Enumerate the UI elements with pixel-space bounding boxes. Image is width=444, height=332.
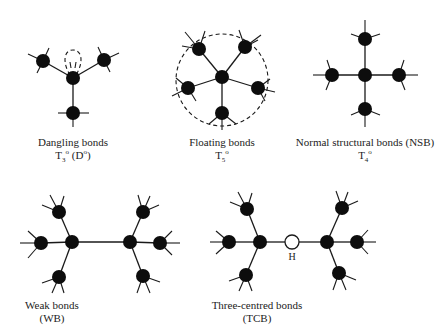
weak-bonds-structure (20, 195, 180, 293)
floating-bonds-title: Floating bonds (189, 136, 255, 149)
atom (136, 205, 150, 219)
nsb-symbol: T4o (296, 149, 434, 162)
atom (240, 202, 254, 216)
central-atom (358, 68, 372, 82)
atom (358, 102, 372, 116)
atom (34, 236, 48, 250)
atom (36, 54, 50, 68)
dangling-bonds-symbol: T3o (Do) (38, 149, 108, 162)
atom (251, 81, 265, 95)
three-centred-bonds-structure (210, 191, 376, 291)
atom (153, 236, 167, 250)
atom (332, 266, 346, 280)
atom (192, 42, 206, 56)
floating-bonds-symbol: T5o (189, 149, 255, 162)
atom (66, 106, 80, 120)
atom (52, 205, 66, 219)
atom (136, 269, 150, 283)
hydrogen-label: H (288, 251, 295, 262)
tcb-label: Three-centred bonds (TCB) (212, 299, 303, 325)
tcb-title: Three-centred bonds (212, 299, 303, 312)
atom (358, 32, 372, 46)
central-atom (253, 235, 267, 249)
floating-bonds-label: Floating bonds T5o (189, 136, 255, 162)
atom (181, 81, 195, 95)
dangling-bonds-label: Dangling bonds T3o (Do) (38, 136, 108, 162)
floating-bonds-structure (172, 30, 275, 130)
nsb-structure (313, 20, 418, 127)
central-atom (66, 71, 80, 85)
atom (97, 53, 111, 67)
dangling-bonds-title: Dangling bonds (38, 136, 108, 149)
tcb-abbrev: (TCB) (212, 312, 303, 325)
atom (239, 268, 253, 282)
atom (335, 201, 349, 215)
atom (392, 68, 406, 82)
atom (215, 106, 229, 120)
weak-bonds-title: Weak bonds (25, 299, 79, 312)
central-atom (123, 235, 137, 249)
central-atom (215, 70, 229, 84)
dangling-bonds-structure (28, 47, 119, 127)
central-atom (65, 235, 79, 249)
nsb-title: Normal structural bonds (NSB) (296, 136, 434, 149)
central-atom (320, 235, 334, 249)
atom (325, 68, 339, 82)
hydrogen-atom (285, 235, 299, 249)
nsb-label: Normal structural bonds (NSB) T4o (296, 136, 434, 162)
diagram-svg (0, 0, 444, 332)
weak-bonds-label: Weak bonds (WB) (25, 299, 79, 325)
weak-bonds-abbrev: (WB) (25, 312, 79, 325)
atom (238, 40, 252, 54)
atom (222, 235, 236, 249)
bonding-defects-diagram: Dangling bonds T3o (Do) Floating bonds T… (0, 0, 444, 332)
atom (52, 270, 66, 284)
atom (350, 235, 364, 249)
